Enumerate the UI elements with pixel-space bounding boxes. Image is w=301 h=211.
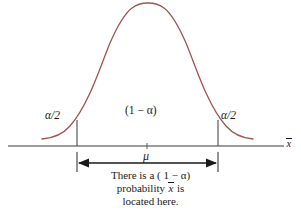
- mean-mu-label: μ: [143, 150, 149, 162]
- caption-line-2-before: probability: [117, 182, 165, 194]
- right-tail-alpha-label: α/2: [221, 110, 236, 122]
- span-arrowhead-left: [78, 159, 89, 168]
- caption-x-bar-glyph: x: [168, 183, 174, 194]
- caption-line-1: There is a ( 1 − α): [0, 170, 301, 181]
- caption-line-2-after: is: [177, 182, 184, 194]
- left-tail-alpha-label: α/2: [45, 110, 60, 122]
- caption-line-2: probabilityxis: [0, 183, 301, 194]
- x-bar-glyph: x: [286, 139, 292, 150]
- span-arrowhead-right: [206, 159, 217, 168]
- confidence-interval-diagram: α/2 α/2 (1 − α) μ x There is a ( 1 − α) …: [0, 0, 301, 211]
- caption-line-3: located here.: [0, 196, 301, 207]
- central-probability-label: (1 − α): [125, 105, 157, 117]
- x-bar-axis-label: x: [286, 139, 292, 150]
